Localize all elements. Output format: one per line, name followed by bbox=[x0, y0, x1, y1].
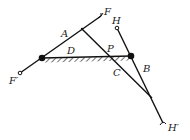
label-a: A bbox=[60, 28, 68, 39]
link-f-fprime bbox=[20, 16, 101, 73]
f-prime-endpoint-icon bbox=[18, 71, 22, 75]
a-joint-icon bbox=[81, 28, 83, 30]
label-h: H bbox=[111, 15, 121, 26]
label-d: D bbox=[66, 45, 75, 56]
right-pivot-icon bbox=[128, 53, 135, 60]
f-endpoint-icon bbox=[98, 13, 103, 18]
h-endpoint-icon bbox=[115, 26, 119, 30]
label-f-prime: F′ bbox=[8, 75, 19, 86]
left-pivot-icon bbox=[39, 55, 46, 62]
label-b: B bbox=[142, 63, 150, 74]
label-h-prime: H′ bbox=[167, 122, 180, 133]
link-a-c bbox=[82, 29, 152, 98]
label-p: P bbox=[106, 43, 114, 54]
link-h-hprime bbox=[117, 28, 163, 123]
ground-bar bbox=[42, 56, 131, 63]
label-f: F bbox=[103, 6, 112, 17]
h-prime-endpoint-icon bbox=[160, 122, 166, 125]
label-c: C bbox=[113, 67, 121, 78]
linkage-diagram: F F′ H H′ A D P C B bbox=[0, 0, 190, 140]
